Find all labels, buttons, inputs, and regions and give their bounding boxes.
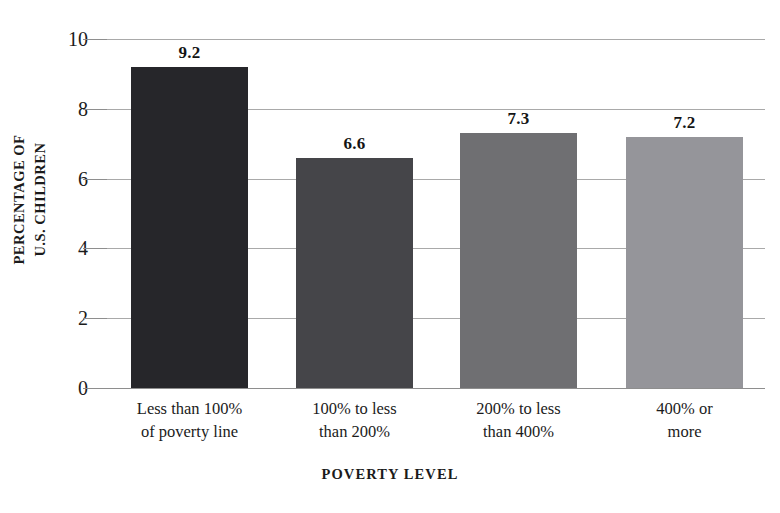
bar[interactable] [626,137,743,388]
bar-value-label: 7.3 [460,109,577,129]
x-axis-category-label: Less than 100%of poverty line [109,398,270,444]
bar-chart: PERCENTAGE OF U.S. CHILDREN 1086420 9.26… [0,0,780,513]
x-axis-category-label: 400% ormore [604,398,765,444]
y-axis-tick-label: 10 [42,28,88,51]
x-axis-category-line: Less than 100% [109,398,270,421]
x-axis-category-label: 100% to lessthan 200% [274,398,435,444]
x-axis-category-line: 400% or [604,398,765,421]
bar[interactable] [460,133,577,388]
y-axis-tick-mark [83,388,107,389]
y-axis-tick-label: 4 [42,237,88,260]
y-axis-title-line-1: PERCENTAGE OF [9,135,30,265]
x-axis-title: POVERTY LEVEL [0,466,780,483]
y-axis-tick-mark [83,179,107,180]
y-axis-tick-label: 6 [42,168,88,191]
bar-value-label: 7.2 [626,113,743,133]
x-axis-category-line: than 200% [274,421,435,444]
y-axis-tick-label: 0 [42,377,88,400]
x-axis-category-line: 100% to less [274,398,435,421]
plot-area: 9.26.67.37.2 [107,39,765,388]
gridline [107,39,765,40]
x-axis-category-line: than 400% [438,421,599,444]
bar-value-label: 6.6 [296,134,413,154]
x-axis-category-line: of poverty line [109,421,270,444]
bar-value-label: 9.2 [131,43,248,63]
gridline [107,388,765,389]
bar[interactable] [131,67,248,388]
bar[interactable] [296,158,413,388]
y-axis-tick-label: 2 [42,307,88,330]
x-axis-category-line: more [604,421,765,444]
y-axis-tick-mark [83,109,107,110]
y-axis-tick-mark [83,248,107,249]
y-axis-tick-mark [83,39,107,40]
y-axis-tick-label: 8 [42,98,88,121]
x-axis-category-line: 200% to less [438,398,599,421]
y-axis-title: PERCENTAGE OF U.S. CHILDREN [2,0,58,400]
x-axis-category-label: 200% to lessthan 400% [438,398,599,444]
y-axis-tick-mark [83,318,107,319]
